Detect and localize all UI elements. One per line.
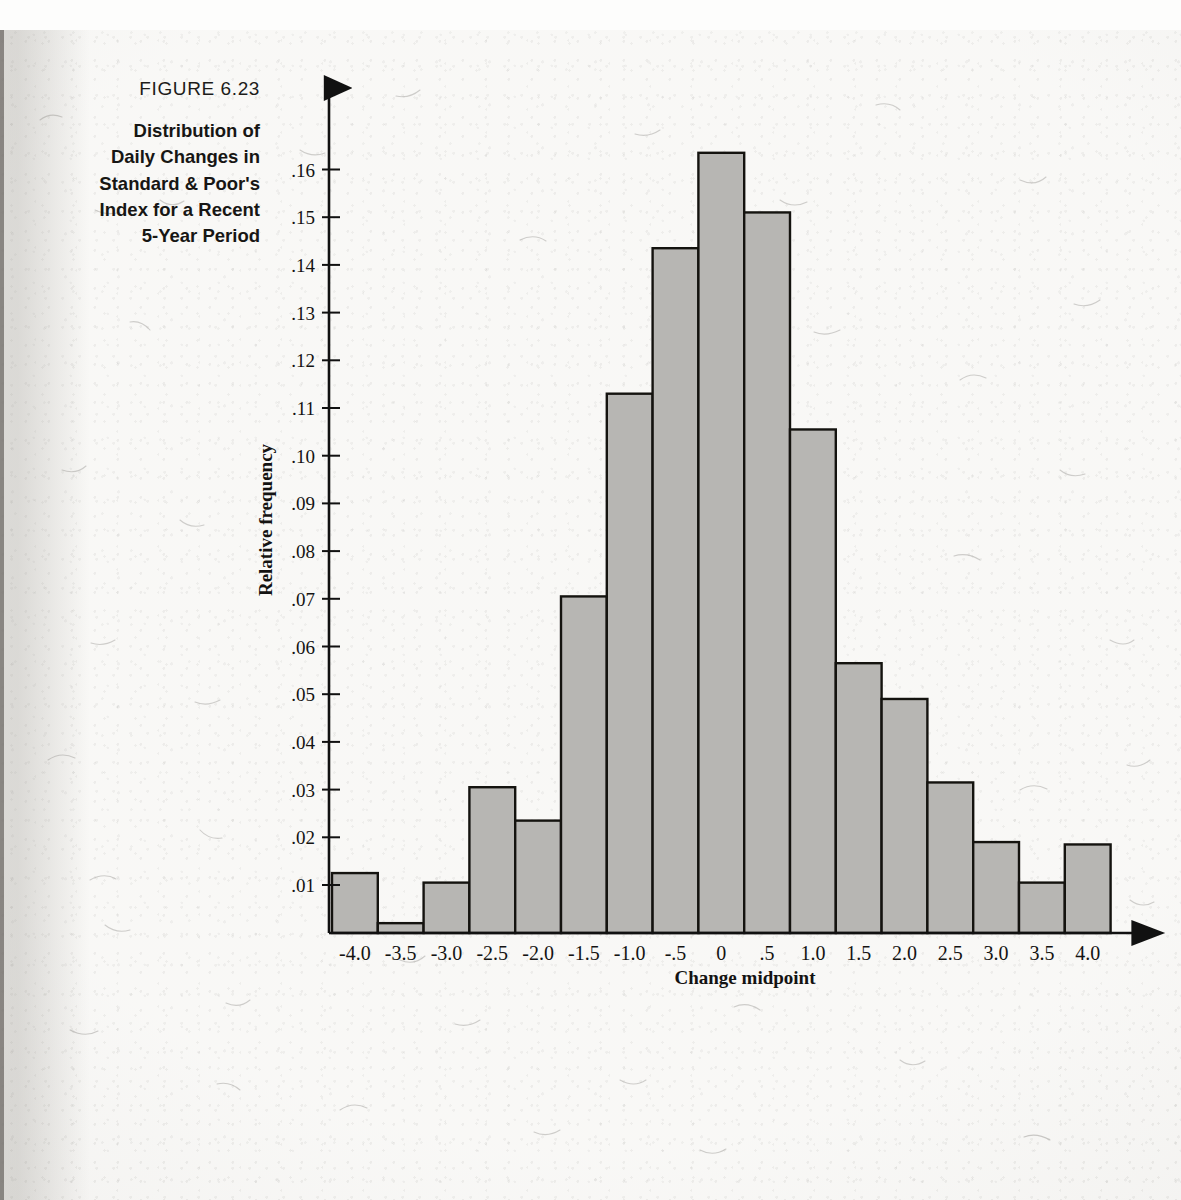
figure-number: FIGURE 6.23 [20,78,260,100]
y-tick-label: .05 [291,684,315,705]
y-tick-label: .16 [291,160,315,181]
x-tick-label: 2.5 [938,942,963,964]
y-tick-label: .15 [291,207,315,228]
y-tick-label: .14 [291,255,315,276]
y-tick-label: .04 [291,732,315,753]
histogram-bar: .5: 0.151 [744,212,790,933]
y-axis-ticks: .01.02.03.04.05.06.07.08.09.10.11.12.13.… [291,160,340,897]
histogram-bar: 2.0: 0.049 [882,699,928,933]
x-tick-label: -3.0 [431,942,463,964]
y-tick-label: .11 [292,398,315,419]
figure-title-line-2: Daily Changes in [20,144,260,170]
scan-left-edge [0,30,4,1200]
histogram-bar: 2.5: 0.0315 [927,782,973,933]
y-tick-label: .07 [291,589,315,610]
x-tick-label: .5 [760,942,775,964]
y-axis-title: Relative frequency [255,443,276,596]
x-tick-label: 3.5 [1029,942,1054,964]
figure-title-line-1: Distribution of [20,118,260,144]
figure-page: FIGURE 6.23 Distribution of Daily Change… [0,0,1181,1200]
histogram-bar: 4.0: 0.0185 [1065,844,1111,933]
histogram-bar: 3.0: 0.019 [973,842,1019,933]
histogram-bar: -3.0: 0.0105 [424,883,470,933]
x-tick-label: -.5 [665,942,687,964]
histogram-bar: -4.0: 0.0125 [332,873,378,933]
x-axis-title: Change midpoint [675,967,817,988]
y-tick-label: .13 [291,303,315,324]
x-tick-label: 4.0 [1075,942,1100,964]
figure-caption: FIGURE 6.23 Distribution of Daily Change… [20,78,260,249]
y-tick-label: .09 [291,493,315,514]
figure-title-line-3: Standard & Poor's [20,171,260,197]
y-tick-label: .08 [291,541,315,562]
x-tick-label: -2.5 [476,942,508,964]
histogram-bar: -3.5: 0.002 [378,923,424,933]
y-tick-label: .01 [291,875,315,896]
histogram-bar: -2.0: 0.0235 [515,821,561,933]
x-tick-label: -1.0 [614,942,646,964]
x-tick-label: 2.0 [892,942,917,964]
histogram-bar: -.5: 0.1435 [653,248,699,933]
y-tick-label: .03 [291,780,315,801]
x-tick-label: 1.5 [846,942,871,964]
x-tick-label: 3.0 [984,942,1009,964]
scan-top-margin [0,0,1181,30]
histogram-bar: -2.5: 0.0305 [469,787,515,933]
y-tick-label: .06 [291,637,315,658]
histogram-bar: 0: 0.1635 [698,153,744,933]
histogram-bar: 1.5: 0.0565 [836,663,882,933]
y-tick-label: .10 [291,446,315,467]
x-axis-ticks: -4.0-3.5-3.0-2.5-2.0-1.5-1.0-.50.51.01.5… [339,942,1100,964]
histogram-bar: 3.5: 0.0105 [1019,883,1065,933]
figure-title: Distribution of Daily Changes in Standar… [20,118,260,249]
x-tick-label: -1.5 [568,942,600,964]
y-tick-label: .02 [291,827,315,848]
histogram-bar: -1.5: 0.0705 [561,596,607,933]
x-tick-label: 1.0 [800,942,825,964]
figure-title-line-4: Index for a Recent [20,197,260,223]
histogram-bar: 1.0: 0.1055 [790,429,836,933]
x-tick-label: -2.0 [522,942,554,964]
figure-title-line-5: 5-Year Period [20,223,260,249]
x-tick-label: 0 [716,942,726,964]
bars-group: -4.0: 0.0125-3.5: 0.002-3.0: 0.0105-2.5:… [332,153,1111,933]
histogram-bar: -1.0: 0.113 [607,394,653,933]
x-tick-label: -4.0 [339,942,371,964]
y-tick-label: .12 [291,350,315,371]
x-tick-label: -3.5 [385,942,417,964]
